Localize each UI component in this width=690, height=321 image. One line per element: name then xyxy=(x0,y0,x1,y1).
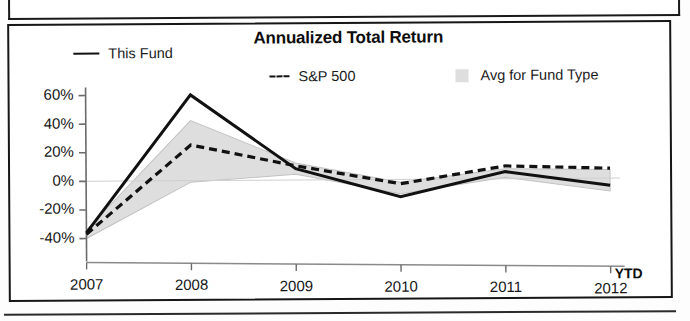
ytd-annotation: YTD xyxy=(615,265,643,281)
x-axis-tick-labels: 200720082009201020112012 xyxy=(9,22,671,300)
x-tick-label: 2007 xyxy=(70,275,103,292)
annualized-total-return-chart-panel: Annualized Total Return This Fund S&P 50… xyxy=(7,20,673,302)
panel-above-chart xyxy=(8,0,680,20)
x-tick-label: 2009 xyxy=(280,277,313,294)
x-tick-label: 2011 xyxy=(490,278,522,295)
scanned-page: Annualized Total Return This Fund S&P 50… xyxy=(0,0,690,321)
x-tick-label: 2010 xyxy=(384,278,417,295)
page-bottom-rule xyxy=(4,310,676,316)
chart-inner: Annualized Total Return This Fund S&P 50… xyxy=(9,22,671,300)
x-tick-label: 2008 xyxy=(175,276,208,293)
x-tick-label: 2012 xyxy=(594,279,627,296)
